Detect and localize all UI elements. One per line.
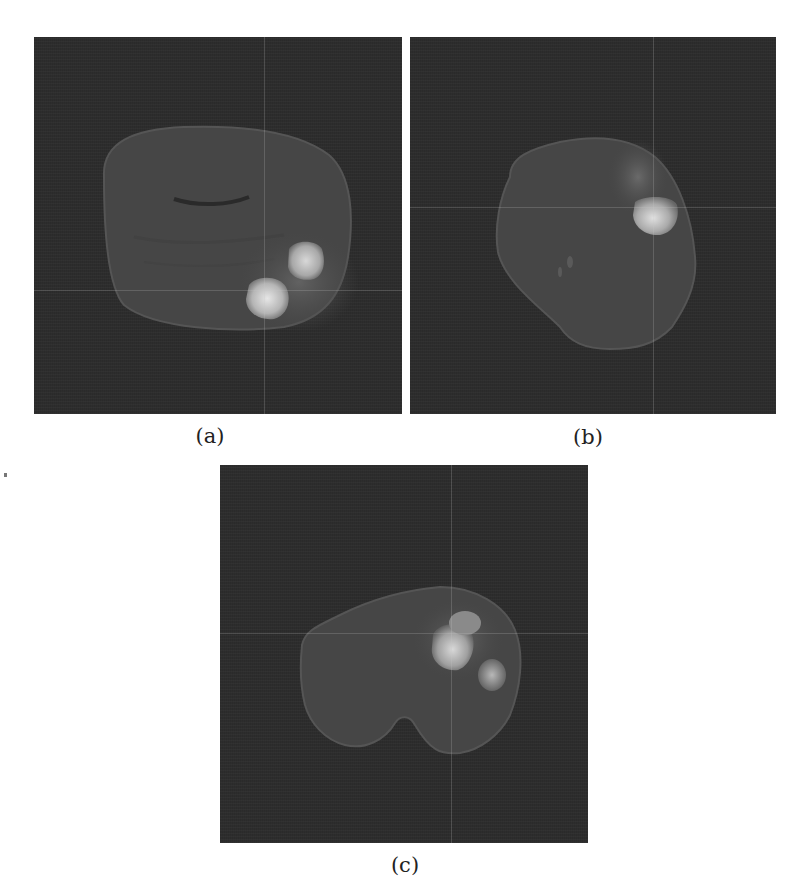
caption-b: (b) [573,425,603,449]
panel-b-coronal-mri [410,37,776,414]
caption-a: (a) [196,424,225,448]
crosshair-horizontal [220,633,588,634]
crosshair-vertical [653,37,654,414]
crosshair-horizontal [410,207,776,208]
panel-c-sagittal-mri [220,465,588,843]
brain-axial-slice [34,37,402,414]
caption-c: (c) [391,853,419,877]
scan-artifact-dot [4,473,7,477]
crosshair-vertical [451,465,452,843]
brain-sagittal-slice [220,465,588,843]
crosshair-horizontal [34,290,402,291]
crosshair-vertical [264,37,265,414]
panel-a-axial-mri [34,37,402,414]
brain-coronal-slice [410,37,776,414]
